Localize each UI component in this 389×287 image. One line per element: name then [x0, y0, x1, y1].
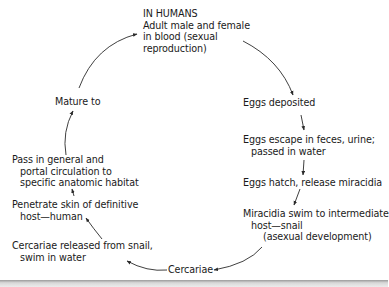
- stage-cercariae-released: Cercariae released from snail, swim in w…: [12, 240, 153, 263]
- stage-pass-circulation: Pass in general and portal circulation t…: [12, 154, 139, 189]
- stage-eggs-escape: Eggs escape in feces, urine; passed in w…: [243, 134, 375, 157]
- stage-humans: IN HUMANS Adult male and female in blood…: [143, 8, 250, 54]
- stage-cercariae: Cercariae: [168, 264, 213, 276]
- stage-mature: Mature to: [55, 96, 100, 108]
- arrow-penetrate-to-pass: [72, 189, 74, 196]
- arrow-humans-to-eggs: [243, 41, 293, 95]
- arrow-escape-to-hatch: [303, 160, 304, 175]
- arrow-deposited-to-escape: [301, 115, 304, 130]
- arrow-miracidia-to-cercariae: [214, 247, 262, 270]
- bottom-divider: [0, 280, 388, 287]
- stage-penetrate: Penetrate skin of definitive host—human: [12, 199, 138, 222]
- stage-eggs-deposited: Eggs deposited: [243, 97, 315, 109]
- arrow-pass-to-mature: [65, 111, 73, 155]
- arrow-hatch-to-miracidia: [294, 189, 300, 205]
- stage-eggs-hatch: Eggs hatch, release miracidia: [243, 177, 382, 189]
- stage-miracidia: Miracidia swim to intermediate host—snai…: [243, 208, 389, 243]
- arrow-mature-to-humans: [79, 34, 137, 88]
